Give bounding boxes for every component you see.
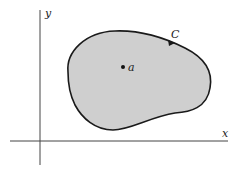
point-a <box>121 65 125 69</box>
x-axis-label: x <box>222 127 229 140</box>
curve-c-label: C <box>171 28 180 41</box>
y-axis-label: y <box>44 7 52 20</box>
region-curve-c <box>68 31 211 130</box>
diagram-canvas: a C y x <box>0 0 238 174</box>
point-a-label: a <box>128 61 135 74</box>
